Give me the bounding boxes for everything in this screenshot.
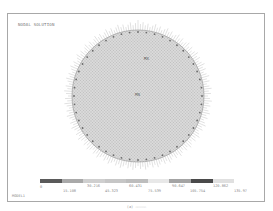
legend-label: 105.754 bbox=[190, 189, 205, 193]
legend-swatch bbox=[40, 179, 62, 183]
legend-label: 90.647 bbox=[172, 184, 185, 188]
legend-swatch bbox=[62, 179, 84, 183]
legend-swatch bbox=[148, 179, 170, 183]
legend-swatch bbox=[83, 179, 105, 183]
legend-label: 135.97 bbox=[234, 189, 247, 193]
legend-label: 60.431 bbox=[129, 184, 142, 188]
legend-label: 75.539 bbox=[148, 189, 161, 193]
circular-mesh-plot: MX MN bbox=[58, 16, 218, 176]
legend-label: 120.862 bbox=[213, 184, 228, 188]
legend-label: 45.323 bbox=[105, 189, 118, 193]
legend-label: 30.216 bbox=[87, 184, 100, 188]
mn-annotation: MN bbox=[135, 92, 140, 97]
legend-label: 15.108 bbox=[63, 189, 76, 193]
legend-swatch bbox=[169, 179, 191, 183]
legend-swatch bbox=[213, 179, 235, 183]
legend-swatch bbox=[191, 179, 213, 183]
figure-title: NODAL SOLUTION bbox=[18, 22, 55, 27]
figure-caption: (a) ————— bbox=[0, 205, 273, 209]
legend-swatch bbox=[105, 179, 127, 183]
color-legend-bar bbox=[40, 179, 234, 183]
legend-swatch bbox=[126, 179, 148, 183]
mx-annotation: MX bbox=[144, 56, 149, 61]
model-label: MODEL1 bbox=[12, 194, 25, 198]
legend-label: 0 bbox=[40, 185, 42, 189]
